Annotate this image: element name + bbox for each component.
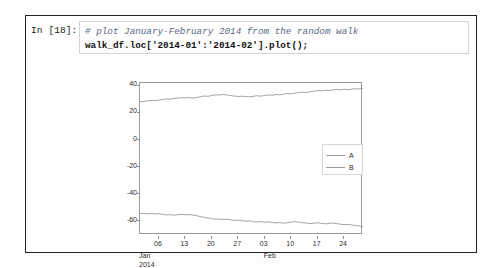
x-axis-tick-mark	[184, 236, 185, 239]
code-input-area[interactable]: # plot January-February 2014 from the ra…	[79, 21, 469, 54]
code-comment-line: # plot January-February 2014 from the ra…	[85, 25, 464, 39]
x-axis-tick-mark	[290, 236, 291, 239]
plot-output-figure: 40200-20-40-60 0613202703101724 Jan2014F…	[79, 56, 409, 251]
legend-item-a: A	[326, 150, 362, 160]
y-axis-tick-label: -60	[111, 216, 137, 223]
x-axis-tick-mark	[343, 236, 344, 239]
x-axis-minor-label: Jan2014	[139, 252, 155, 268]
notebook-cell: In [18]: # plot January-February 2014 fr…	[25, 15, 477, 253]
x-axis-tick-label: 03	[260, 240, 268, 247]
x-axis-minor-labels: Jan2014Feb	[139, 252, 362, 268]
minor-label-line: 2014	[139, 261, 155, 268]
legend-swatch	[326, 155, 345, 156]
y-axis-tick-mark	[137, 220, 140, 221]
x-axis-tick-mark	[264, 236, 265, 239]
series-line-a	[140, 88, 363, 101]
y-axis-tick-mark	[137, 85, 140, 86]
x-axis-tick-label: 27	[233, 240, 241, 247]
y-axis-tick-label: 0	[111, 135, 137, 142]
x-axis-tick-label: 24	[339, 240, 347, 247]
x-axis-tick-mark	[237, 236, 238, 239]
x-axis-tick-mark	[317, 236, 318, 239]
legend-swatch	[326, 167, 345, 168]
y-axis-tick-mark	[137, 193, 140, 194]
series-line-b	[140, 213, 363, 226]
x-axis-tick-label: 13	[180, 240, 188, 247]
input-prompt-label: In [18]:	[31, 25, 77, 36]
chart-legend: AB	[322, 144, 363, 175]
x-axis-tick-mark	[158, 236, 159, 239]
x-axis-tick-label: 10	[286, 240, 294, 247]
code-source-line: walk_df.loc['2014-01':'2014-02'].plot();	[85, 39, 464, 53]
y-axis-tick-mark	[137, 139, 140, 140]
x-axis-tick-label: 20	[207, 240, 215, 247]
y-axis-tick-label: -20	[111, 162, 137, 169]
x-axis-tick-label: 06	[154, 240, 162, 247]
page-root: In [18]: # plot January-February 2014 fr…	[0, 0, 501, 268]
x-axis-tick-label: 17	[313, 240, 321, 247]
minor-label-line: Jan	[139, 252, 155, 261]
legend-item-b: B	[326, 162, 362, 172]
x-axis-minor-label: Feb	[264, 252, 276, 261]
y-axis-tick-label: 20	[111, 107, 137, 114]
y-axis-tick-labels: 40200-20-40-60	[105, 82, 137, 234]
x-axis-tick-mark	[211, 236, 212, 239]
minor-label-line: Feb	[264, 252, 276, 261]
legend-label: B	[349, 163, 354, 172]
legend-label: A	[349, 151, 354, 160]
y-axis-tick-label: -40	[111, 189, 137, 196]
y-axis-tick-mark	[137, 112, 140, 113]
y-axis-tick-label: 40	[111, 80, 137, 87]
x-axis-tick-labels: 0613202703101724	[139, 236, 362, 250]
y-axis-tick-mark	[137, 166, 140, 167]
